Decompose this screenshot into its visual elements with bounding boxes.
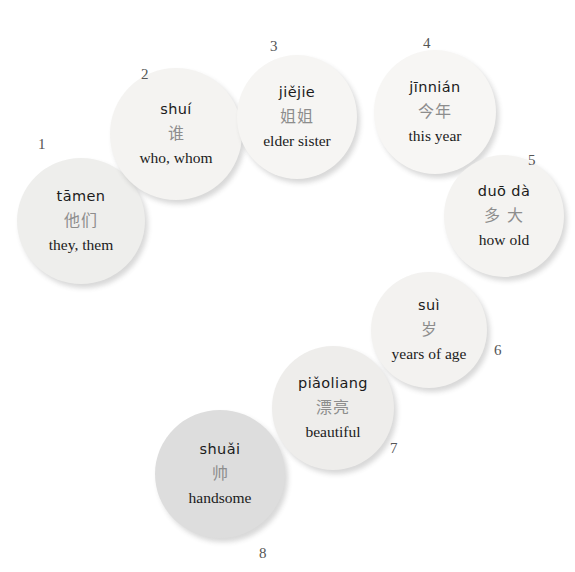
flashcard-3-english: elder sister [263, 132, 331, 149]
flashcard-7-number: 7 [390, 440, 398, 457]
flashcard-board: tāmen 他们 they, them 1 shuí 谁 who, whom 2… [0, 0, 575, 572]
flashcard-4-english: this year [409, 127, 462, 144]
flashcard-5-pinyin: duō dà [478, 184, 530, 200]
flashcard-5-hanzi: 多 大 [484, 207, 524, 225]
flashcard-7-english: beautiful [305, 423, 360, 440]
flashcard-1-number: 1 [38, 136, 46, 153]
flashcard-3-number: 3 [270, 38, 278, 55]
flashcard-6-number: 6 [494, 342, 502, 359]
flashcard-8-pinyin: shuǎi [200, 442, 241, 458]
flashcard-7-pinyin: piǎoliang [298, 376, 368, 392]
flashcard-8-hanzi: 帅 [212, 465, 229, 483]
flashcard-6-hanzi: 岁 [421, 321, 438, 339]
flashcard-3-pinyin: jiějie [279, 85, 315, 101]
flashcard-8-number: 8 [259, 545, 267, 562]
flashcard-6-pinyin: suì [418, 298, 440, 314]
flashcard-6[interactable]: suì 岁 years of age [371, 272, 487, 388]
flashcard-2-pinyin: shuí [160, 102, 192, 118]
flashcard-3[interactable]: jiějie 姐姐 elder sister [237, 55, 357, 179]
flashcard-8-english: handsome [189, 489, 252, 506]
flashcard-8[interactable]: shuǎi 帅 handsome [155, 410, 285, 538]
flashcard-1-english: they, them [49, 236, 113, 253]
flashcard-3-hanzi: 姐姐 [280, 108, 314, 126]
flashcard-4-number: 4 [423, 35, 431, 52]
flashcard-2-english: who, whom [139, 149, 212, 166]
flashcard-5-number: 5 [528, 152, 536, 169]
flashcard-1-pinyin: tāmen [57, 189, 106, 205]
flashcard-2[interactable]: shuí 谁 who, whom [110, 68, 242, 200]
flashcard-2-number: 2 [141, 66, 149, 83]
flashcard-6-english: years of age [392, 345, 467, 362]
flashcard-1-hanzi: 他们 [64, 212, 98, 230]
flashcard-7[interactable]: piǎoliang 漂亮 beautiful [272, 346, 394, 470]
flashcard-5-english: how old [479, 231, 529, 248]
flashcard-7-hanzi: 漂亮 [316, 399, 350, 417]
flashcard-4-pinyin: jīnnián [409, 80, 460, 96]
flashcard-2-hanzi: 谁 [168, 125, 185, 143]
flashcard-4-hanzi: 今年 [418, 103, 452, 121]
flashcard-5[interactable]: duō dà 多 大 how old [444, 155, 564, 277]
flashcard-4[interactable]: jīnnián 今年 this year [374, 50, 496, 174]
